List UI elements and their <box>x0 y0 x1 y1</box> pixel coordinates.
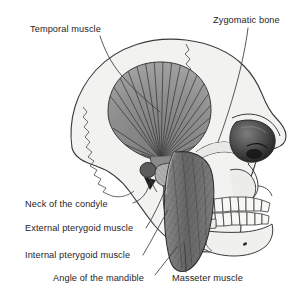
label-zygomatic-bone: Zygomatic bone <box>213 15 280 25</box>
label-masseter-muscle: Masseter muscle <box>172 273 243 283</box>
label-angle-of-the-mandible: Angle of the mandible <box>53 273 144 283</box>
label-internal-pterygoid-muscle: Internal pterygoid muscle <box>25 250 130 260</box>
label-temporal-muscle: Temporal muscle <box>30 24 101 34</box>
anatomical-figure-muscles-of-mastication: Temporal muscle Zygomatic bone Neck of t… <box>0 0 304 302</box>
label-external-pterygoid-muscle: External pterygoid muscle <box>25 223 133 233</box>
label-neck-of-the-condyle: Neck of the condyle <box>25 199 108 209</box>
upper-teeth <box>206 197 270 213</box>
orbit <box>230 120 275 162</box>
